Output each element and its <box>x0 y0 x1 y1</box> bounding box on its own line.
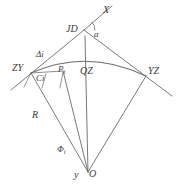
radius-zy-o <box>31 73 88 172</box>
label-angle-a: a <box>94 30 99 39</box>
label-zy: ZY <box>12 63 23 73</box>
label-qz: QZ <box>80 66 93 76</box>
forward-tangent-line <box>84 30 172 96</box>
diagram-canvas <box>0 0 177 190</box>
radius-qz-o <box>85 36 88 172</box>
label-r: R <box>32 110 38 120</box>
label-o: O <box>89 169 96 179</box>
back-tangent-line <box>11 30 84 90</box>
radius-pi-o <box>63 71 88 172</box>
curve-geometry-diagram: JD X a Δi ZY Ci Pi QZ YZ R Φi y O <box>0 0 177 190</box>
label-phi-main: Φ <box>57 144 64 154</box>
label-x: X <box>103 5 109 15</box>
label-pi: Pi <box>58 65 65 74</box>
tick-pi <box>60 72 63 88</box>
label-pi-subscript: i <box>64 68 66 75</box>
label-delta-i: Δi <box>36 50 44 59</box>
label-pi-main: P <box>58 64 64 74</box>
tangent-stub-zy <box>24 73 31 87</box>
label-yz: YZ <box>148 66 159 76</box>
radius-yz-o <box>88 76 146 172</box>
label-phi-i: Φi <box>57 145 66 154</box>
label-y: y <box>74 170 78 180</box>
label-jd: JD <box>66 24 78 34</box>
label-ci: Ci <box>36 74 45 83</box>
label-phi-subscript: i <box>64 148 66 155</box>
